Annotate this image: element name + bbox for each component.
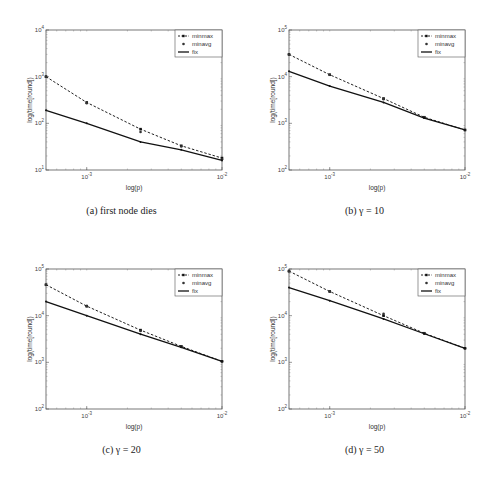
y-tick-label: 103 — [35, 72, 45, 80]
data-point — [140, 333, 142, 335]
data-point — [383, 318, 385, 320]
y-tick-label: 105 — [278, 25, 288, 33]
data-point — [221, 360, 223, 362]
data-point — [329, 300, 331, 302]
x-tick-label: 10-2 — [217, 411, 228, 419]
data-point — [464, 129, 466, 131]
data-point — [45, 109, 47, 111]
data-point-minavg — [328, 290, 331, 293]
y-axis-label: log(time[round]) — [26, 77, 34, 123]
chart-panel-d: 10210310410510-310-2log(p)log(time[round… — [243, 239, 486, 478]
legend-label: fix — [192, 288, 198, 294]
legend: minmaxminavgfix — [418, 269, 465, 296]
data-point — [86, 122, 88, 124]
y-tick-label: 102 — [35, 404, 45, 412]
y-tick-label: 105 — [278, 264, 288, 272]
x-tick-label: 10-3 — [81, 411, 92, 419]
x-tick-label: 10-3 — [324, 411, 335, 419]
y-axis-label: log(time[round]) — [26, 316, 34, 362]
y-tick-label: 103 — [35, 357, 45, 365]
legend-label: fix — [435, 49, 441, 55]
data-point — [288, 287, 290, 289]
x-tick-label: 10-2 — [460, 411, 471, 419]
data-point — [288, 70, 290, 72]
legend-swatch-minavg — [182, 43, 185, 46]
caption-d: (d) γ = 50 — [243, 444, 486, 455]
legend-label: minmax — [192, 272, 213, 278]
chart-c: 10210310410510-310-2log(p)log(time[round… — [0, 239, 243, 439]
data-point — [139, 128, 142, 131]
y-axis-label: log(time[round]) — [269, 316, 277, 362]
caption-c: (c) γ = 20 — [0, 444, 243, 455]
y-tick-label: 104 — [35, 311, 45, 319]
x-tick-label: 10-3 — [324, 172, 335, 180]
y-axis-label: log(time[round]) — [269, 77, 277, 123]
data-point-minavg — [45, 75, 48, 78]
data-point — [45, 301, 47, 303]
y-tick-label: 102 — [278, 165, 288, 173]
legend-label: fix — [435, 288, 441, 294]
legend-label: minmax — [435, 272, 456, 278]
legend-swatch-minavg — [425, 282, 428, 285]
chart-b: 10210310410510-310-2log(p)log(time[round… — [243, 0, 486, 200]
data-point-minavg — [288, 270, 291, 273]
x-tick-label: 10-3 — [81, 172, 92, 180]
chart-panel-c: 10210310410510-310-2log(p)log(time[round… — [0, 239, 243, 478]
data-point-minavg — [382, 312, 385, 315]
data-point — [464, 347, 466, 349]
legend-label: minavg — [192, 41, 211, 47]
y-tick-label: 104 — [278, 311, 288, 319]
data-point-minavg — [45, 283, 48, 286]
legend: minmaxminavgfix — [175, 269, 222, 296]
x-axis-label: log(p) — [369, 423, 386, 431]
data-point — [221, 159, 223, 161]
data-point-minavg — [288, 53, 291, 56]
x-axis-label: log(p) — [126, 184, 143, 192]
data-point-minavg — [139, 131, 142, 134]
legend-label: minavg — [435, 41, 454, 47]
legend-label: minmax — [435, 33, 456, 39]
y-tick-label: 104 — [35, 25, 45, 33]
data-point-minavg — [85, 305, 88, 308]
y-tick-label: 103 — [278, 118, 288, 126]
legend-swatch-minavg — [425, 43, 428, 46]
x-axis-label: log(p) — [126, 423, 143, 431]
data-point-minavg — [85, 102, 88, 105]
x-axis-label: log(p) — [369, 184, 386, 192]
x-tick-label: 10-2 — [460, 172, 471, 180]
y-tick-label: 102 — [35, 118, 45, 126]
data-point — [86, 315, 88, 317]
y-tick-label: 104 — [278, 72, 288, 80]
data-point — [383, 101, 385, 103]
legend: minmaxminavgfix — [418, 30, 465, 57]
caption-b: (b) γ = 10 — [243, 205, 486, 216]
data-point — [329, 85, 331, 87]
data-point — [180, 149, 182, 151]
legend-label: minavg — [435, 280, 454, 286]
data-point-minavg — [328, 73, 331, 76]
data-point — [423, 117, 425, 119]
y-tick-label: 101 — [35, 165, 45, 173]
data-point-minavg — [382, 98, 385, 101]
chart-d: 10210310410510-310-2log(p)log(time[round… — [243, 239, 486, 439]
chart-panel-b: 10210310410510-310-2log(p)log(time[round… — [243, 0, 486, 239]
data-point-minavg — [139, 330, 142, 333]
y-tick-label: 103 — [278, 357, 288, 365]
legend-swatch-minavg — [182, 282, 185, 285]
chart-panel-a: 10110210310410-310-2log(p)log(time[round… — [0, 0, 243, 239]
data-point — [180, 346, 182, 348]
y-tick-label: 105 — [35, 264, 45, 272]
data-point-minavg — [180, 145, 183, 148]
legend: minmaxminavgfix — [175, 30, 222, 57]
chart-a: 10110210310410-310-2log(p)log(time[round… — [0, 0, 243, 200]
legend-label: minavg — [192, 280, 211, 286]
x-tick-label: 10-2 — [217, 172, 228, 180]
data-point — [140, 141, 142, 143]
y-tick-label: 102 — [278, 404, 288, 412]
caption-a: (a) first node dies — [0, 205, 243, 216]
legend-label: minmax — [192, 33, 213, 39]
legend-label: fix — [192, 49, 198, 55]
data-point — [423, 333, 425, 335]
